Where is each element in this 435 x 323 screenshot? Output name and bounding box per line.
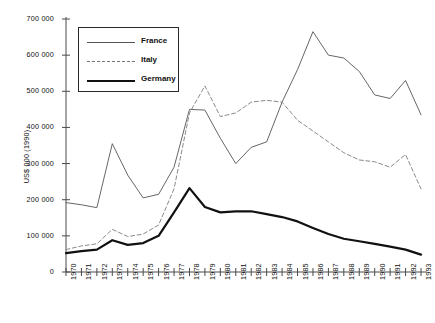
x-tick-label: 1970 [69, 263, 78, 280]
y-tick-label: 700 000 [8, 14, 54, 23]
x-tick-label: 1972 [100, 263, 109, 280]
x-tick-label: 1981 [239, 263, 248, 280]
x-tick-label: 1984 [285, 263, 294, 280]
x-tick-label: 1985 [301, 263, 310, 280]
legend-item-germany: Germany [79, 72, 180, 90]
legend: France Italy Germany [78, 27, 179, 92]
x-tick-label: 1977 [177, 263, 186, 280]
y-tick-label: 300 000 [8, 159, 54, 168]
x-tick-label: 1978 [192, 263, 201, 280]
x-tick-label: 1976 [162, 263, 171, 280]
x-tick-label: 1992 [409, 263, 418, 280]
x-tick-label: 1989 [362, 263, 371, 280]
y-tick-label: 0 [8, 267, 54, 276]
x-tick-label: 1987 [331, 263, 340, 280]
x-tick-label: 1975 [146, 263, 155, 280]
y-tick-label: 100 000 [8, 231, 54, 240]
legend-line-italy-icon [87, 61, 135, 66]
x-tick-label: 1993 [424, 263, 433, 280]
legend-label-germany: Germany [141, 74, 176, 83]
y-tick-label: 200 000 [8, 195, 54, 204]
y-tick-label: 400 000 [8, 122, 54, 131]
legend-item-france: France [79, 34, 180, 52]
x-tick-label: 1974 [131, 263, 140, 280]
y-tick-label: 600 000 [8, 50, 54, 59]
legend-line-france-icon [87, 42, 135, 47]
x-tick-label: 1983 [270, 263, 279, 280]
legend-item-italy: Italy [79, 53, 180, 71]
legend-label-france: France [141, 36, 167, 45]
series-line-italy [66, 86, 421, 250]
x-tick-label: 1991 [393, 263, 402, 280]
x-tick-label: 1986 [316, 263, 325, 280]
legend-line-germany-icon [87, 80, 135, 86]
line-chart: US$ 000 (1990) 0100 000200 000300 000400… [0, 0, 435, 323]
x-tick-label: 1980 [223, 263, 232, 280]
x-tick-label: 1979 [208, 263, 217, 280]
series-line-germany [66, 188, 421, 255]
legend-label-italy: Italy [141, 55, 157, 64]
y-tick-label: 500 000 [8, 86, 54, 95]
x-tick-label: 1973 [115, 263, 124, 280]
x-tick-label: 1988 [347, 263, 356, 280]
x-tick-label: 1990 [378, 263, 387, 280]
x-tick-label: 1971 [84, 263, 93, 280]
x-tick-label: 1982 [254, 263, 263, 280]
